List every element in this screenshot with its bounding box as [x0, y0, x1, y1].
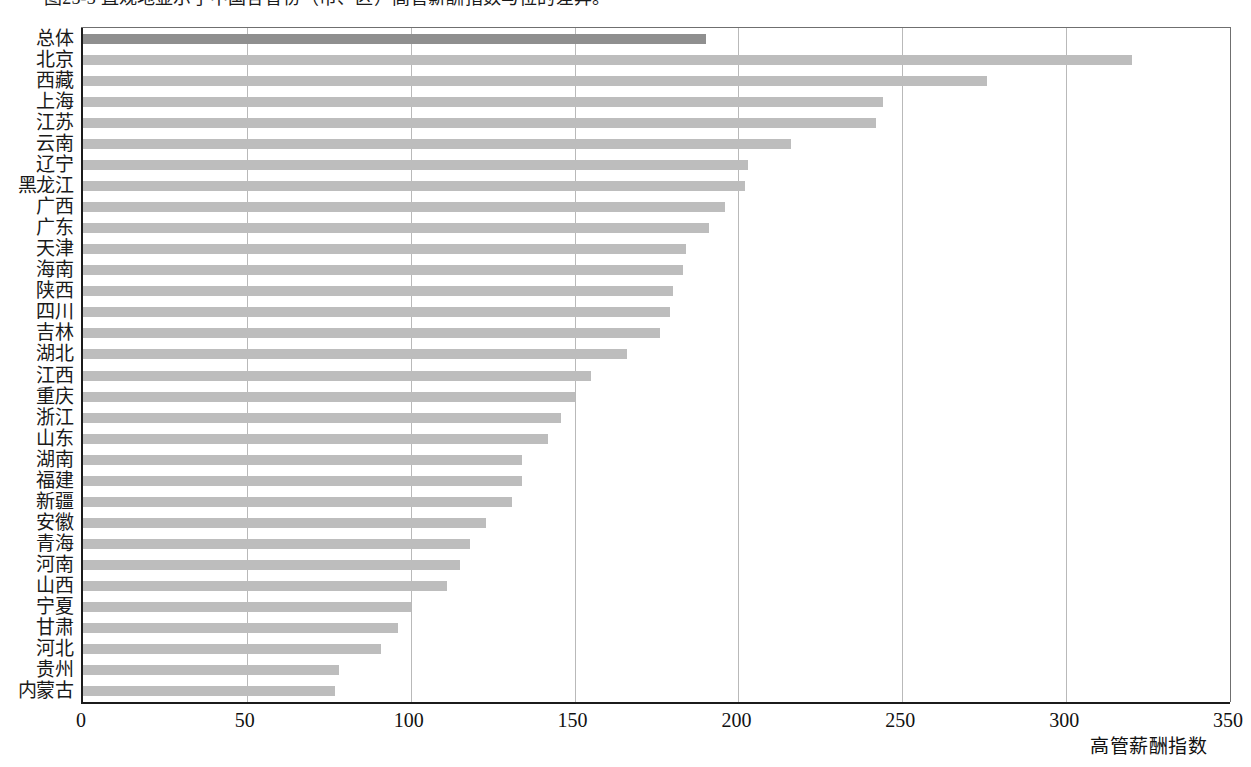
bar: [83, 97, 883, 107]
y-axis-tick-label: 北京: [0, 50, 73, 69]
y-axis-tick-label: 山西: [0, 576, 73, 595]
y-axis-tick-label: 广西: [0, 197, 73, 216]
y-axis-tick-label: 湖北: [0, 344, 73, 363]
bar: [83, 202, 725, 212]
bar: [83, 55, 1132, 65]
x-axis-tick-label: 50: [210, 709, 280, 731]
bar: [83, 413, 561, 423]
bar: [83, 644, 381, 654]
gridline: [1066, 28, 1067, 702]
gridline: [738, 28, 739, 702]
y-axis-tick-label: 江苏: [0, 113, 73, 132]
y-axis-tick-label: 上海: [0, 92, 73, 111]
x-axis-tick-label: 250: [865, 709, 935, 731]
y-axis-tick-label: 青海: [0, 534, 73, 553]
y-axis-tick-label: 陕西: [0, 281, 73, 300]
bar: [83, 434, 548, 444]
y-axis-tick-label: 甘肃: [0, 618, 73, 637]
y-axis-tick-label: 新疆: [0, 492, 73, 511]
y-axis-tick-label: 四川: [0, 302, 73, 321]
bar: [83, 139, 791, 149]
bar: [83, 560, 460, 570]
x-axis-tick-label: 350: [1193, 709, 1251, 731]
bar: [83, 581, 447, 591]
y-axis-tick-label: 江西: [0, 366, 73, 385]
bar: [83, 602, 411, 612]
y-axis-tick-label: 辽宁: [0, 155, 73, 174]
plot-area: [81, 28, 1230, 704]
bar: [83, 34, 706, 44]
x-axis-tick-label: 100: [374, 709, 444, 731]
x-axis-tick-label: 300: [1029, 709, 1099, 731]
y-axis-tick-label: 广东: [0, 218, 73, 237]
bar: [83, 328, 660, 338]
bar: [83, 286, 673, 296]
bar: [83, 476, 522, 486]
y-axis-tick-label: 河南: [0, 555, 73, 574]
y-axis-tick-label: 福建: [0, 471, 73, 490]
gridline: [411, 28, 412, 702]
gridline: [902, 28, 903, 702]
x-axis-tick-label: 0: [46, 709, 116, 731]
y-axis-tick-label: 天津: [0, 239, 73, 258]
bar: [83, 76, 987, 86]
bar: [83, 623, 398, 633]
bar: [83, 371, 591, 381]
y-axis-tick-label: 内蒙古: [0, 681, 73, 700]
y-axis-tick-label: 西藏: [0, 71, 73, 90]
y-axis-tick-label: 浙江: [0, 408, 73, 427]
bar: [83, 539, 470, 549]
gridline: [575, 28, 576, 702]
bar: [83, 223, 709, 233]
y-axis-tick-label: 宁夏: [0, 597, 73, 616]
bar: [83, 497, 512, 507]
y-axis-tick-label: 总体: [0, 29, 73, 48]
bar: [83, 307, 670, 317]
x-axis-tick-label: 150: [538, 709, 608, 731]
bar: [83, 181, 745, 191]
y-axis-tick-label: 山东: [0, 429, 73, 448]
bar: [83, 665, 339, 675]
bar: [83, 265, 683, 275]
bar: [83, 118, 876, 128]
bar: [83, 349, 627, 359]
y-axis-tick-label: 重庆: [0, 387, 73, 406]
y-axis-tick-label: 海南: [0, 260, 73, 279]
x-axis-title: 高管薪酬指数: [1090, 736, 1207, 757]
bar: [83, 686, 335, 696]
y-axis-tick-label: 湖南: [0, 450, 73, 469]
bar: [83, 455, 522, 465]
y-axis-tick-label: 云南: [0, 134, 73, 153]
bar: [83, 392, 575, 402]
gridline: [247, 28, 248, 702]
x-axis-tick-label: 200: [701, 709, 771, 731]
y-axis-tick-label: 黑龙江: [0, 176, 73, 195]
bar: [83, 160, 748, 170]
y-axis-tick-label: 河北: [0, 639, 73, 658]
bar: [83, 518, 486, 528]
y-axis-tick-label: 贵州: [0, 660, 73, 679]
y-axis-tick-label: 安徽: [0, 513, 73, 532]
bar-chart: 总体北京西藏上海江苏云南辽宁黑龙江广西广东天津海南陕西四川吉林湖北江西重庆浙江山…: [0, 0, 1251, 767]
bar: [83, 244, 686, 254]
y-axis-tick-label: 吉林: [0, 323, 73, 342]
